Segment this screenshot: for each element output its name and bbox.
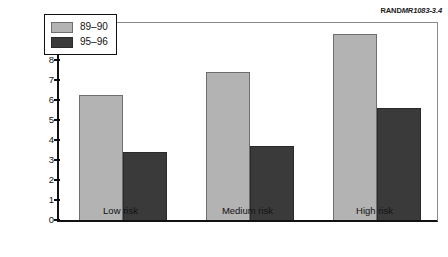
y-tick-label: 5 xyxy=(49,113,54,126)
chart-legend: 89–9095–96 xyxy=(44,14,117,55)
y-tick-mark xyxy=(54,219,60,221)
bar xyxy=(79,95,123,220)
y-tick-mark xyxy=(54,99,60,101)
legend-swatch xyxy=(51,37,73,48)
y-tick-mark xyxy=(54,159,60,161)
y-tick-label: 3 xyxy=(49,153,54,166)
x-axis-category-label: Low risk xyxy=(57,205,184,216)
figure: RANDMR1083-3.4 Percentage of teachers 01… xyxy=(0,0,448,257)
y-tick-mark xyxy=(54,179,60,181)
legend-label: 95–96 xyxy=(80,36,108,48)
y-tick-mark xyxy=(54,119,60,121)
y-tick-label: 0 xyxy=(49,213,54,226)
x-axis-category-label: High risk xyxy=(311,205,438,216)
y-tick-label: 1 xyxy=(49,193,54,206)
rand-logo-text: RAND xyxy=(380,6,401,15)
legend-label: 89–90 xyxy=(80,21,108,33)
y-tick-label: 6 xyxy=(49,93,54,106)
y-tick-label: 2 xyxy=(49,173,54,186)
y-tick-mark xyxy=(54,199,60,201)
y-tick-mark xyxy=(54,139,60,141)
bar xyxy=(206,72,250,220)
bar xyxy=(377,108,421,220)
legend-item: 95–96 xyxy=(51,35,108,49)
y-tick-mark xyxy=(54,59,60,61)
document-id: MR1083-3.4 xyxy=(402,6,442,15)
x-axis-category-label: Medium risk xyxy=(184,205,311,216)
y-tick-label: 4 xyxy=(49,133,54,146)
legend-swatch xyxy=(51,22,73,33)
y-tick-mark xyxy=(54,79,60,81)
y-tick-label: 7 xyxy=(49,73,54,86)
source-credit: RANDMR1083-3.4 xyxy=(380,6,442,15)
bar xyxy=(333,34,377,220)
legend-item: 89–90 xyxy=(51,20,108,34)
